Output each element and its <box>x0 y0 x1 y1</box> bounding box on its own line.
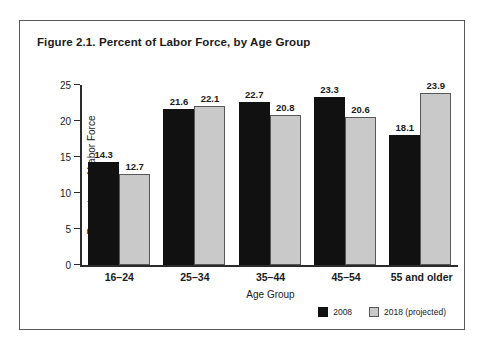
y-tick-mark <box>74 228 80 230</box>
bar-value-label: 14.3 <box>94 149 113 160</box>
x-axis-categories: 16–2425–3435–4445–5455 and older <box>82 271 460 283</box>
bar-wrapper: 14.3 <box>88 85 119 265</box>
bar[interactable] <box>194 106 225 265</box>
y-tick-label: 25 <box>60 80 71 91</box>
x-category-label: 35–44 <box>238 271 302 283</box>
bar-value-label: 20.6 <box>351 104 370 115</box>
bar-wrapper: 23.3 <box>314 85 345 265</box>
bar-value-label: 20.8 <box>276 102 295 113</box>
bar-group: 21.622.1 <box>163 85 225 265</box>
figure-container: Figure 2.1. Percent of Labor Force, by A… <box>19 20 465 330</box>
bar[interactable] <box>163 109 194 265</box>
bar[interactable] <box>270 115 301 265</box>
bar[interactable] <box>88 162 119 265</box>
bar-group: 18.123.9 <box>389 85 451 265</box>
x-axis-line <box>80 265 458 267</box>
bar[interactable] <box>389 135 420 265</box>
legend-swatch <box>369 307 379 317</box>
bar-groups: 14.312.721.622.122.720.823.320.618.123.9 <box>82 85 459 265</box>
bar-wrapper: 18.1 <box>389 85 420 265</box>
x-category-label: 25–34 <box>163 271 227 283</box>
bar-group: 22.720.8 <box>239 85 301 265</box>
bar-value-label: 12.7 <box>125 161 144 172</box>
y-tick-label: 10 <box>60 188 71 199</box>
chart-legend: 20082018 (projected) <box>318 307 446 317</box>
y-tick-mark <box>74 84 80 86</box>
x-category-label: 55 and older <box>390 271 454 283</box>
bar[interactable] <box>239 102 270 265</box>
legend-item[interactable]: 2008 <box>318 307 352 317</box>
x-axis-title: Age Group <box>82 289 460 300</box>
y-tick-label: 15 <box>60 152 71 163</box>
y-tick-label: 20 <box>60 116 71 127</box>
legend-swatch <box>318 307 328 317</box>
bar[interactable] <box>420 93 451 265</box>
bar-group: 23.320.6 <box>314 85 376 265</box>
bar-wrapper: 22.7 <box>239 85 270 265</box>
bar-group: 14.312.7 <box>88 85 150 265</box>
y-tick-label: 5 <box>65 224 71 235</box>
y-tick-mark <box>74 120 80 122</box>
y-tick-label: 0 <box>65 260 71 271</box>
figure-title: Figure 2.1. Percent of Labor Force, by A… <box>37 36 310 48</box>
bar-value-label: 22.1 <box>201 93 220 104</box>
bar-wrapper: 12.7 <box>119 85 150 265</box>
bar-value-label: 23.9 <box>427 80 446 91</box>
bar[interactable] <box>119 174 150 265</box>
y-tick-mark <box>74 264 80 266</box>
bar[interactable] <box>314 97 345 265</box>
bar-wrapper: 23.9 <box>420 85 451 265</box>
y-tick-mark <box>74 192 80 194</box>
y-tick-mark <box>74 156 80 158</box>
bar-wrapper: 21.6 <box>163 85 194 265</box>
bar-wrapper: 20.8 <box>270 85 301 265</box>
bar[interactable] <box>345 117 376 265</box>
plot-area: Percentage of Labor Force 0510152025 14.… <box>80 85 458 265</box>
bar-value-label: 22.7 <box>245 89 264 100</box>
bar-value-label: 23.3 <box>320 84 339 95</box>
legend-label: 2018 (projected) <box>384 307 446 317</box>
bar-wrapper: 20.6 <box>345 85 376 265</box>
bar-value-label: 18.1 <box>396 122 415 133</box>
legend-item[interactable]: 2018 (projected) <box>369 307 446 317</box>
bar-wrapper: 22.1 <box>194 85 225 265</box>
legend-label: 2008 <box>333 307 352 317</box>
x-category-label: 16–24 <box>87 271 151 283</box>
bar-value-label: 21.6 <box>170 96 189 107</box>
x-category-label: 45–54 <box>314 271 378 283</box>
